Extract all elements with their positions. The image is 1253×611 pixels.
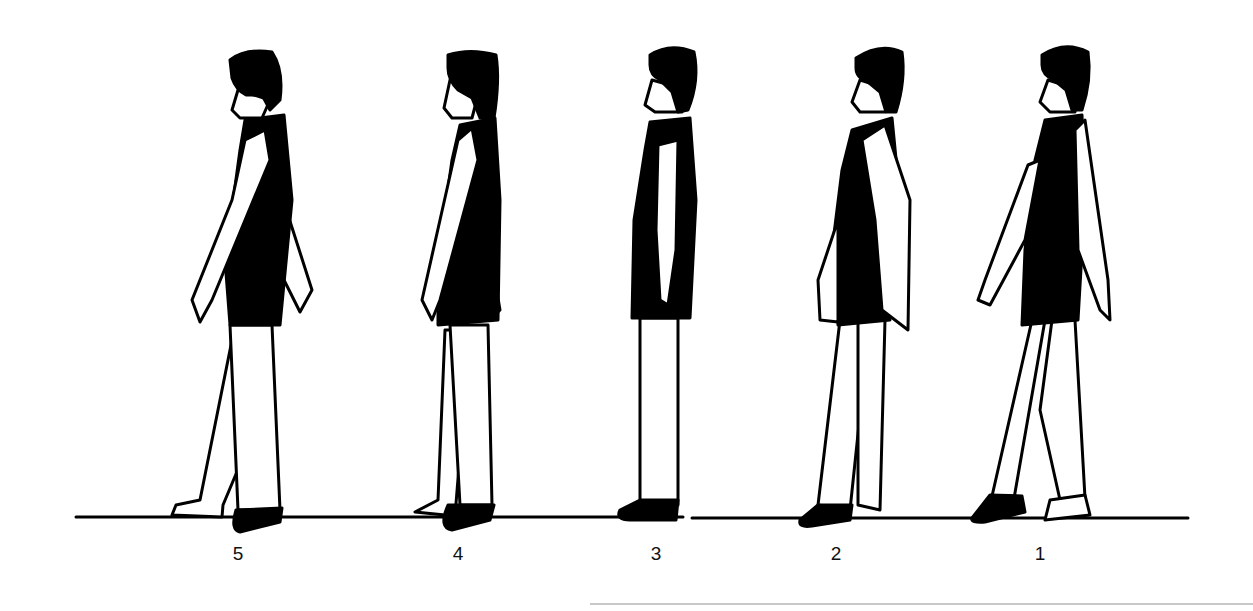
figure-label-1: 1 [1035,543,1046,565]
figure-5 [172,51,312,532]
figure-1 [972,47,1110,523]
figure-label-4: 4 [453,543,464,565]
figure-label-5: 5 [233,543,244,565]
figure-label-3: 3 [651,543,662,565]
gait-illustration [0,0,1253,611]
figure-2 [800,48,910,526]
figure-4 [415,52,500,531]
bottom-divider [590,603,1253,605]
figure-3 [619,48,696,520]
figure-label-2: 2 [831,543,842,565]
gait-diagram: 5 4 3 2 1 [0,0,1253,611]
